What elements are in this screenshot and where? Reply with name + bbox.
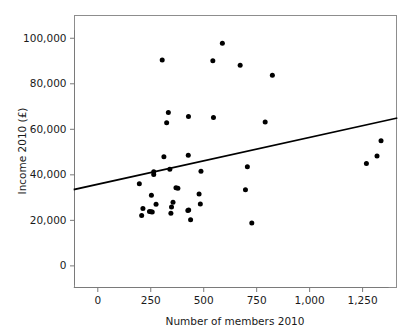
data-point [161,154,166,159]
y-tick-label: 80,000 [30,77,67,89]
data-point [186,114,191,119]
y-tick-label: 20,000 [30,214,67,226]
x-tick-label: 500 [194,294,214,306]
data-point [160,58,165,63]
data-point [249,221,254,226]
y-tick-label: 0 [60,259,67,271]
data-point [198,169,203,174]
data-point [220,41,225,46]
data-point [364,161,369,166]
data-point [150,209,155,214]
x-axis-title: Number of members 2010 [166,315,305,327]
y-tick-label: 100,000 [23,32,66,44]
data-point [379,138,384,143]
data-point [197,191,202,196]
data-point [149,193,154,198]
data-point [154,202,159,207]
data-point [188,217,193,222]
data-point [185,208,190,213]
data-point [168,211,173,216]
data-point [139,213,144,218]
data-point [167,167,172,172]
y-axis-title: Income 2010 (£) [16,108,28,195]
data-point [151,172,156,177]
data-point [211,115,216,120]
data-point [270,73,275,78]
plot-svg: 020,00040,00060,00080,000100,000 0250500… [0,0,411,336]
x-tick-label: 0 [94,294,101,306]
data-point [238,63,243,68]
data-point [175,186,180,191]
data-point [375,153,380,158]
data-point [169,204,174,209]
x-tick-label: 250 [141,294,161,306]
data-point [210,58,215,63]
x-tick-label: 1,000 [295,294,325,306]
data-point [243,187,248,192]
data-point [140,206,145,211]
data-point [164,120,169,125]
data-point [263,120,268,125]
x-tick-label: 1,250 [348,294,378,306]
data-point [245,164,250,169]
x-tick-label: 750 [247,294,267,306]
data-point [166,110,171,115]
y-tick-label: 60,000 [30,123,67,135]
scatter-plot-figure: 020,00040,00060,00080,000100,000 0250500… [0,0,411,336]
data-point [137,181,142,186]
y-tick-label: 40,000 [30,168,67,180]
data-point [171,200,176,205]
data-point [186,153,191,158]
data-point [198,201,203,206]
